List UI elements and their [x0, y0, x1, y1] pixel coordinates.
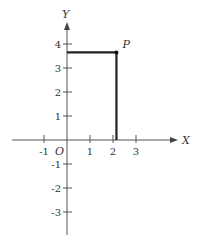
x-tick-label: 1	[87, 146, 93, 157]
y-axis-ticks: 4321-1-2-3	[51, 39, 72, 218]
point-label: P	[121, 38, 130, 51]
y-axis	[64, 22, 70, 235]
x-axis-arrow-icon	[170, 137, 178, 143]
y-axis-arrow-icon	[64, 22, 70, 30]
y-tick-label: 4	[55, 39, 61, 50]
point-p-marker	[114, 50, 118, 54]
x-tick-label: 3	[133, 146, 139, 157]
x-axis-label: X	[181, 134, 191, 147]
y-tick-label: 3	[55, 63, 61, 74]
y-tick-label: -1	[51, 159, 61, 170]
y-tick-label: -2	[51, 183, 61, 194]
x-tick-label: -1	[39, 146, 49, 157]
x-tick-label: 2	[110, 146, 116, 157]
y-tick-label: -3	[51, 207, 61, 218]
x-axis	[12, 137, 178, 143]
y-axis-label: Y	[62, 8, 71, 21]
coordinate-plane: -1123 4321-1-2-3 P X Y O	[0, 0, 198, 246]
origin-label: O	[55, 145, 64, 158]
y-tick-label: 2	[55, 87, 61, 98]
y-tick-label: 1	[55, 111, 61, 122]
